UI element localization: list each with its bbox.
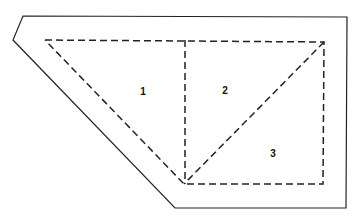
region-label-2: 2	[222, 85, 228, 96]
region-label-3: 3	[270, 148, 276, 159]
region-diagram: 1 2 3	[0, 0, 359, 221]
diagonal-divider	[184, 42, 324, 184]
region-label-1: 1	[140, 86, 146, 97]
